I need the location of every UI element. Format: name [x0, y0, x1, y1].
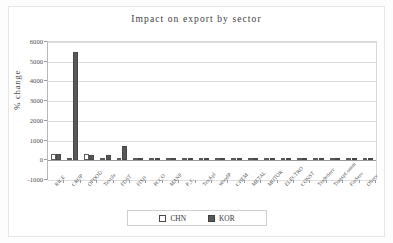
bar-group: [264, 42, 274, 180]
bar-kor: [319, 158, 324, 160]
y-axis-tick-mark: [44, 80, 47, 81]
y-axis-tick-mark: [44, 61, 47, 62]
y-axis-tick-label: 4000: [0, 77, 43, 84]
bar-kor: [270, 158, 275, 160]
bar-group: [51, 42, 61, 180]
bar-chn: [264, 158, 269, 160]
bar-group: [67, 42, 77, 180]
legend-label-chn: CHN: [170, 214, 186, 223]
bar-chn: [67, 158, 72, 160]
bar-kor: [73, 52, 78, 160]
plot-area: [47, 41, 377, 180]
x-axis-tick-mark: [277, 180, 278, 183]
bar-kor: [188, 158, 193, 160]
bar-group: [117, 42, 127, 180]
y-axis-tick-label: 5000: [0, 57, 43, 64]
chart-title: Impact on export by sector: [0, 14, 393, 24]
bar-kor: [155, 158, 160, 160]
bar-group: [182, 42, 192, 180]
bar-chn: [166, 158, 171, 160]
bar-group: [231, 42, 241, 180]
bar-chn: [231, 158, 236, 160]
bar-kor: [237, 158, 242, 160]
bar-kor: [171, 158, 176, 160]
bar-chn: [330, 158, 335, 160]
bar-chn: [199, 158, 204, 160]
bar-chn: [117, 158, 122, 160]
bar-kor: [89, 155, 94, 160]
bar-group: [133, 42, 143, 180]
chart-figure: Impact on export by sector % change 6000…: [0, 0, 393, 243]
bar-chn: [100, 158, 105, 160]
y-axis-tick-label: 2000: [0, 116, 43, 123]
legend-label-kor: KOR: [219, 214, 235, 223]
bar-chn: [313, 158, 318, 160]
x-axis-tick-mark: [359, 180, 360, 183]
bar-kor: [138, 158, 143, 160]
bar-kor: [122, 146, 127, 160]
y-axis-tick-mark: [44, 120, 47, 121]
bar-group: [248, 42, 258, 180]
chart-legend: CHN KOR: [127, 210, 267, 226]
bar-group: [346, 42, 356, 180]
bar-kor: [220, 158, 225, 160]
bar-chn: [346, 158, 351, 160]
bar-chn: [84, 154, 89, 160]
x-axis-tick-mark: [113, 180, 114, 183]
bar-chn: [51, 154, 56, 161]
y-axis-tick-label: 1000: [0, 136, 43, 143]
y-axis-tick-label: 3000: [0, 97, 43, 104]
bar-kor: [106, 155, 111, 160]
bar-group: [363, 42, 373, 180]
bar-group: [149, 42, 159, 180]
bar-chn: [363, 158, 368, 160]
bar-kor: [368, 158, 373, 160]
bar-kor: [352, 158, 357, 160]
y-axis-tick-label: 6000: [0, 38, 43, 45]
x-axis-tick-mark: [195, 180, 196, 183]
legend-swatch-chn-icon: [159, 215, 166, 222]
bar-group: [330, 42, 340, 180]
bar-group: [100, 42, 110, 180]
y-axis-tick-label: -1000: [0, 176, 43, 183]
bar-group: [84, 42, 94, 180]
legend-item-chn: CHN: [159, 214, 186, 223]
bar-series-container: [48, 42, 376, 180]
bar-chn: [182, 158, 187, 160]
y-axis-tick-label: 0: [0, 156, 43, 163]
y-axis-tick-mark: [44, 159, 47, 160]
bar-group: [281, 42, 291, 180]
bar-chn: [133, 158, 138, 160]
bar-kor: [335, 158, 340, 160]
bar-kor: [56, 154, 61, 161]
bar-kor: [253, 158, 258, 160]
bar-chn: [281, 158, 286, 160]
bar-chn: [248, 158, 253, 160]
legend-item-kor: KOR: [208, 214, 235, 223]
legend-swatch-kor-icon: [208, 215, 215, 222]
bar-group: [166, 42, 176, 180]
y-axis-tick-mark: [44, 179, 47, 180]
bar-group: [215, 42, 225, 180]
bar-chn: [149, 158, 154, 160]
bar-kor: [286, 158, 291, 160]
bar-group: [313, 42, 323, 180]
bar-group: [297, 42, 307, 180]
y-axis-title: % change: [12, 60, 22, 120]
y-axis-tick-mark: [44, 140, 47, 141]
bar-chn: [297, 158, 302, 160]
bar-kor: [302, 158, 307, 160]
y-axis-tick-mark: [44, 100, 47, 101]
y-axis-tick-mark: [44, 41, 47, 42]
bar-chn: [215, 158, 220, 160]
bar-group: [199, 42, 209, 180]
bar-kor: [204, 158, 209, 160]
